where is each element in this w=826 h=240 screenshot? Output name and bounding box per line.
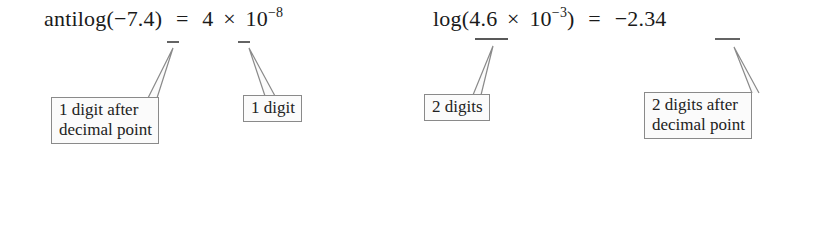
callout-line: decimal point <box>652 115 745 135</box>
callout-1-digit: 1 digit <box>243 95 302 122</box>
callout-line: 1 digit after <box>59 100 152 120</box>
callout-line: decimal point <box>59 120 152 140</box>
callout-line: 2 digits after <box>652 95 745 115</box>
callout-line: 2 digits <box>432 97 483 117</box>
callout-2-digits-after-decimal: 2 digits after decimal point <box>644 92 752 139</box>
callout-2-digits: 2 digits <box>424 94 490 121</box>
callout-1-digit-after-decimal: 1 digit after decimal point <box>51 97 159 144</box>
callout-line: 1 digit <box>251 98 295 118</box>
